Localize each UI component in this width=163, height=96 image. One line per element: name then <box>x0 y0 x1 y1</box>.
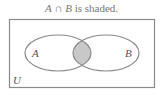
set-b-label: B <box>125 47 132 59</box>
set-a-label: A <box>31 47 39 59</box>
universe-label: U <box>13 74 22 86</box>
venn-diagram: A B U <box>0 0 163 96</box>
